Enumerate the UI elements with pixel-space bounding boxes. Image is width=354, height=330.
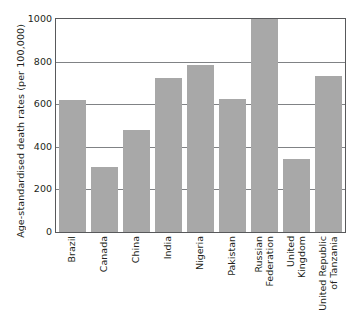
x-axis-tick-label: China (131, 236, 142, 263)
x-axis-label-slot: Russian Federation (249, 236, 281, 328)
y-axis-tick-label: 400 (34, 142, 52, 152)
x-axis-tick-label: Canada (99, 236, 110, 272)
bar[interactable] (219, 99, 246, 232)
bar-slot (185, 19, 217, 232)
x-axis-tick-label: Pakistan (227, 236, 238, 276)
bar-slot (216, 19, 248, 232)
x-axis-label-slot: India (152, 236, 184, 328)
y-axis-tick-label: 1000 (28, 14, 52, 24)
y-axis-tick-label: 200 (34, 185, 52, 195)
bar-slot (248, 19, 280, 232)
x-axis-tick-label: India (163, 236, 174, 259)
x-axis-tick-label: Brazil (67, 236, 78, 263)
x-axis-label-slot: United Republic of Tanzania (313, 236, 345, 328)
x-axis-tick-label: United Republic of Tanzania (318, 236, 340, 311)
y-axis-tick-label: 0 (46, 227, 52, 237)
bar-slot (312, 19, 344, 232)
y-axis-tick-labels: 02004006008001000 (26, 18, 52, 233)
x-axis-label-slot: United Kingdom (281, 236, 313, 328)
y-axis-tick-label: 800 (34, 57, 52, 67)
bar-chart-figure: Age-standardised death rates (per 100,00… (0, 0, 354, 330)
x-axis-label-slot: Brazil (56, 236, 88, 328)
bar[interactable] (315, 76, 342, 232)
bar[interactable] (155, 78, 182, 232)
x-axis-label-slot: Nigeria (184, 236, 216, 328)
x-axis-label-slot: Pakistan (217, 236, 249, 328)
x-axis-tick-label: Nigeria (195, 236, 206, 270)
bar-slot (280, 19, 312, 232)
bar[interactable] (283, 159, 310, 232)
bar-series (56, 19, 345, 232)
y-axis-tick-label: 600 (34, 99, 52, 109)
bar-slot (89, 19, 121, 232)
x-axis-label-slot: China (120, 236, 152, 328)
y-axis-title: Age-standardised death rates (per 100,00… (15, 24, 26, 238)
bar[interactable] (123, 130, 150, 232)
bar-slot (153, 19, 185, 232)
x-axis-label-slot: Canada (88, 236, 120, 328)
bar[interactable] (91, 167, 118, 232)
bar-slot (121, 19, 153, 232)
x-axis-tick-labels: BrazilCanadaChinaIndiaNigeriaPakistanRus… (55, 236, 346, 328)
bar-slot (57, 19, 89, 232)
bar[interactable] (251, 19, 278, 232)
plot-area (55, 18, 346, 233)
x-axis-tick-label: United Kingdom (286, 236, 308, 278)
bar[interactable] (187, 65, 214, 232)
bar[interactable] (59, 100, 86, 232)
x-axis-tick-label: Russian Federation (254, 236, 276, 287)
